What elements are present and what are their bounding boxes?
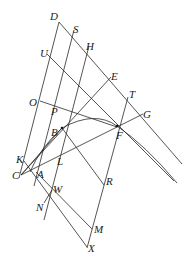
label-U: U — [40, 47, 49, 59]
geometric-diagram: DSHUETGOPBFKCALWNRMX — [0, 0, 195, 267]
label-N: N — [35, 201, 44, 213]
label-B: B — [51, 126, 58, 138]
label-C: C — [12, 169, 20, 181]
label-D: D — [49, 10, 58, 22]
label-F: F — [115, 129, 123, 141]
line-W-N — [44, 190, 52, 203]
label-W: W — [53, 183, 63, 195]
line-A-M — [36, 172, 92, 229]
label-R: R — [105, 175, 113, 187]
label-X: X — [87, 242, 96, 254]
line-C-G — [21, 114, 143, 175]
label-P: P — [50, 105, 58, 117]
label-A: A — [36, 168, 44, 180]
line-D-far — [59, 22, 182, 164]
label-O: O — [29, 96, 37, 108]
point-F — [116, 125, 119, 128]
label-T: T — [129, 88, 136, 100]
labels: DSHUETGOPBFKCALWNRMX — [12, 10, 151, 254]
label-G: G — [143, 108, 151, 120]
label-M: M — [93, 223, 104, 235]
label-E: E — [110, 70, 118, 82]
point-B — [61, 127, 64, 130]
label-K: K — [15, 153, 24, 165]
label-H: H — [85, 40, 95, 52]
label-S: S — [73, 23, 79, 35]
label-L: L — [56, 155, 63, 167]
line-K-X — [24, 161, 87, 247]
